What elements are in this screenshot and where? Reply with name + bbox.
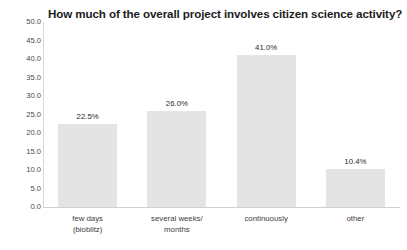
y-axis-tick-label: 25.0 bbox=[3, 111, 41, 119]
x-axis-tick-label: few days(bioblitz) bbox=[43, 214, 132, 235]
y-axis-tick-label: 30.0 bbox=[3, 92, 41, 100]
y-axis-tick-label: 0.0 bbox=[3, 203, 41, 211]
y-axis-tick-label: 40.0 bbox=[3, 55, 41, 63]
y-axis-tick-label: 35.0 bbox=[3, 74, 41, 82]
y-axis-tick-label: 5.0 bbox=[3, 185, 41, 193]
bar[interactable] bbox=[326, 169, 385, 207]
y-axis-tick-label: 15.0 bbox=[3, 148, 41, 156]
bar-value-label: 26.0% bbox=[132, 99, 221, 108]
bar-group[interactable]: 22.5% bbox=[43, 22, 132, 207]
y-axis-tick-label: 20.0 bbox=[3, 129, 41, 137]
plot-area: 22.5%26.0%41.0%10.4% bbox=[43, 22, 400, 207]
bar[interactable] bbox=[147, 111, 206, 207]
y-axis-tick-label: 45.0 bbox=[3, 37, 41, 45]
x-axis-tick-label: several weeks/months bbox=[132, 214, 221, 235]
bar-value-label: 10.4% bbox=[311, 157, 400, 166]
chart-title: How much of the overall project involves… bbox=[48, 7, 398, 20]
y-axis-tick-label: 10.0 bbox=[3, 166, 41, 174]
y-axis: 0.05.010.015.020.025.030.035.040.045.050… bbox=[0, 0, 41, 250]
y-axis-tick-label: 50.0 bbox=[3, 18, 41, 26]
chart-canvas: How much of the overall project involves… bbox=[0, 0, 407, 250]
bar-value-label: 22.5% bbox=[43, 112, 132, 121]
bar-group[interactable]: 10.4% bbox=[311, 22, 400, 207]
x-axis-tick-label: continuously bbox=[222, 214, 311, 225]
bar-group[interactable]: 26.0% bbox=[132, 22, 221, 207]
x-axis-tick-label: other bbox=[311, 214, 400, 225]
x-axis: few days(bioblitz)several weeks/monthsco… bbox=[43, 210, 400, 250]
x-axis-line bbox=[43, 207, 400, 208]
bar-value-label: 41.0% bbox=[222, 43, 311, 52]
bar-group[interactable]: 41.0% bbox=[222, 22, 311, 207]
bar[interactable] bbox=[237, 55, 296, 207]
bar[interactable] bbox=[58, 124, 117, 207]
